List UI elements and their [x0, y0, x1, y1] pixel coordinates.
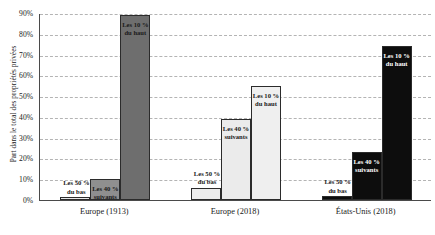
bar-value-label: Les 40 % suivants	[91, 185, 119, 201]
y-axis-tick: 70%	[0, 52, 33, 60]
bar-value-label: Les 40 % suivants	[222, 125, 250, 141]
y-axis-tick: 50%	[0, 93, 33, 101]
plot-area: Les 50 % du basLes 40 % suivantsLes 10 %…	[39, 14, 431, 201]
y-axis-tick: 90%	[0, 10, 33, 18]
gridline	[40, 97, 431, 98]
bar-value-label: Les 40 % suivants	[353, 158, 381, 174]
gridline	[40, 76, 431, 77]
bar-chart: Part dans le total des propriétés privée…	[0, 0, 435, 235]
bar: Les 40 % suivants	[221, 119, 251, 200]
y-axis-tick: 60%	[0, 72, 33, 80]
y-axis-tick: 30%	[0, 135, 33, 143]
gridline	[40, 14, 431, 15]
x-axis-category: Europe (2018)	[170, 207, 301, 216]
y-axis-tick: 20%	[0, 155, 33, 163]
y-axis-tick: 0%	[0, 197, 33, 205]
gridline	[40, 35, 431, 36]
bar: Les 50 % du bas	[191, 188, 221, 200]
y-axis-tick: 80%	[0, 31, 33, 39]
bar-value-label: Les 10 % du haut	[121, 21, 149, 37]
bar: Les 50 % du bas	[322, 196, 352, 200]
bar-value-label: Les 10 % du haut	[383, 52, 411, 68]
x-axis-category: États-Unis (2018)	[300, 207, 431, 216]
gridline	[40, 56, 431, 57]
bar: Les 50 % du bas	[60, 197, 90, 200]
bar: Les 10 % du haut	[120, 15, 150, 200]
x-axis-category: Europe (1913)	[39, 207, 170, 216]
y-axis-tick-labels: 90%80%70%60%50%40%30%20%10%0%	[0, 14, 39, 201]
y-axis-tick: 40%	[0, 114, 33, 122]
bar: Les 40 % suivants	[352, 152, 382, 200]
bar: Les 10 % du haut	[382, 46, 412, 200]
y-axis-tick: 10%	[0, 176, 33, 184]
bar: Les 40 % suivants	[90, 179, 120, 200]
bar-value-label: Les 10 % du haut	[252, 92, 280, 108]
bar: Les 10 % du haut	[251, 86, 281, 200]
